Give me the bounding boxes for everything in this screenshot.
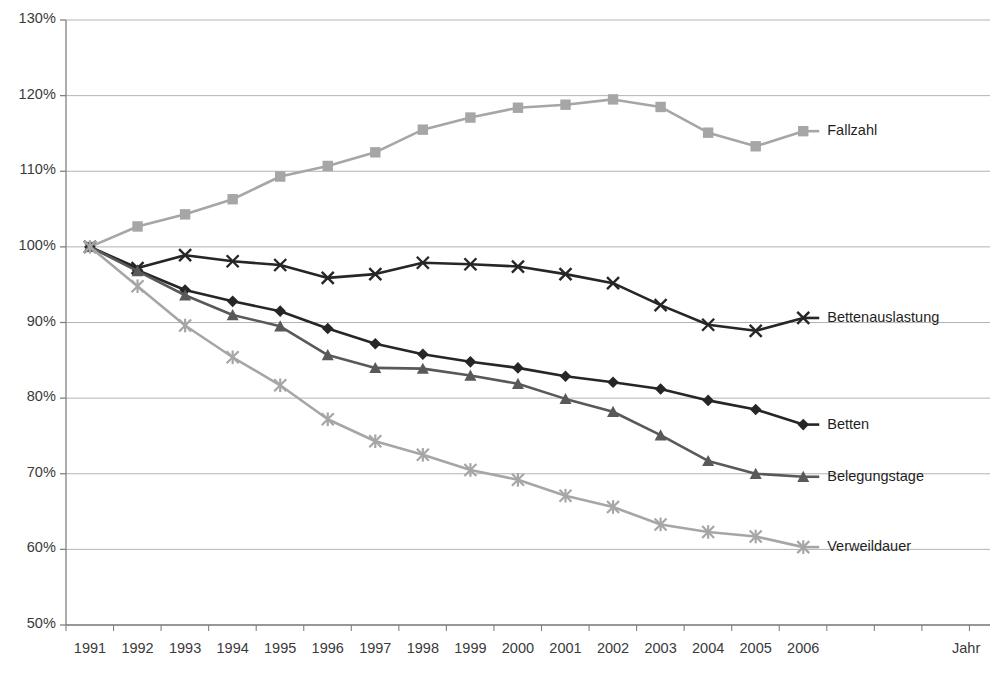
- y-tick-label-50: 50%: [0, 615, 56, 631]
- y-tick-label-90: 90%: [0, 313, 56, 329]
- datapoint-verweildauer-1996: [322, 413, 334, 427]
- datapoint-betten-1997: [370, 338, 382, 350]
- line-chart-plot: [0, 0, 1002, 674]
- datapoint-verweildauer-1993: [179, 319, 191, 333]
- datapoint-fallzahl-2002: [608, 94, 618, 104]
- y-tick-label-100: 100%: [0, 237, 56, 253]
- series-line-belegungstage: [90, 247, 803, 477]
- x-axis-title: Jahr: [952, 640, 980, 656]
- series-label-fallzahl: Fallzahl: [827, 122, 877, 138]
- datapoint-belegungstage-1996: [322, 349, 334, 360]
- datapoint-bettenauslastung-2003: [655, 299, 667, 311]
- series-line-bettenauslastung: [90, 247, 803, 331]
- datapoint-betten-2001: [560, 370, 572, 382]
- datapoint-fallzahl-2006: [798, 126, 808, 136]
- datapoint-verweildauer-1995: [274, 378, 286, 392]
- datapoint-fallzahl-1994: [227, 194, 237, 204]
- datapoint-betten-1998: [417, 348, 429, 360]
- x-tick-marks-group: [66, 625, 969, 631]
- datapoint-fallzahl-2004: [703, 127, 713, 137]
- datapoint-fallzahl-1993: [180, 209, 190, 219]
- y-tick-label-120: 120%: [0, 86, 56, 102]
- datapoint-belegungstage-2004: [702, 455, 714, 466]
- datapoint-fallzahl-1999: [465, 112, 475, 122]
- datapoint-betten-1999: [465, 356, 477, 368]
- datapoint-betten-2005: [750, 404, 762, 416]
- series-label-verweildauer: Verweildauer: [827, 538, 911, 554]
- y-tick-label-110: 110%: [0, 161, 56, 177]
- datapoint-betten-2006: [797, 419, 809, 431]
- y-tick-label-60: 60%: [0, 539, 56, 555]
- datapoint-betten-2000: [512, 362, 524, 374]
- chart-container: 50%60%70%80%90%100%110%120%130% 19911992…: [0, 0, 1002, 674]
- datapoint-verweildauer-1992: [132, 279, 144, 293]
- series-fallzahl: [85, 94, 819, 252]
- datapoint-betten-1995: [274, 305, 286, 317]
- datapoint-fallzahl-2005: [751, 141, 761, 151]
- datapoint-belegungstage-2003: [655, 429, 667, 440]
- x-tick-label-2006: 2006: [773, 640, 833, 656]
- datapoint-betten-1996: [322, 323, 334, 335]
- datapoint-verweildauer-1994: [227, 350, 239, 364]
- y-tick-label-80: 80%: [0, 388, 56, 404]
- datapoint-fallzahl-1998: [418, 124, 428, 134]
- y-tick-label-130: 130%: [0, 10, 56, 26]
- datapoint-betten-2002: [607, 376, 619, 388]
- series-line-fallzahl: [90, 99, 803, 246]
- series-label-bettenauslastung: Bettenauslastung: [827, 309, 939, 325]
- y-tick-marks-group: [60, 20, 66, 625]
- datapoint-betten-2004: [702, 395, 714, 407]
- series-layer-group: [84, 94, 819, 554]
- series-betten: [84, 241, 819, 430]
- datapoint-fallzahl-1995: [275, 171, 285, 181]
- datapoint-fallzahl-2000: [513, 103, 523, 113]
- series-label-betten: Betten: [827, 416, 869, 432]
- datapoint-fallzahl-1996: [323, 161, 333, 171]
- datapoint-betten-2003: [655, 383, 667, 395]
- datapoint-fallzahl-2003: [655, 102, 665, 112]
- series-belegungstage: [84, 241, 819, 482]
- series-label-belegungstage: Belegungstage: [827, 468, 924, 484]
- datapoint-fallzahl-1992: [132, 221, 142, 231]
- datapoint-fallzahl-2001: [560, 100, 570, 110]
- datapoint-fallzahl-1997: [370, 147, 380, 157]
- y-tick-label-70: 70%: [0, 464, 56, 480]
- datapoint-betten-1994: [227, 296, 239, 308]
